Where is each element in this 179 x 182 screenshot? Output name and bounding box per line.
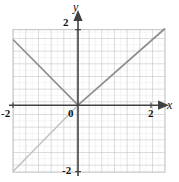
x-axis-tick-label-right: 2	[148, 108, 154, 119]
x-axis-label: x	[167, 99, 172, 111]
grid-major	[13, 30, 165, 173]
x-axis-tick-label-left: -2	[1, 108, 10, 119]
origin-label: 0	[68, 108, 74, 119]
y-axis-tick-label-bottom: -2	[62, 165, 71, 176]
coordinate-plane-figure: x y 2 -2 -2 2 0	[0, 0, 179, 182]
y-axis-label: y	[73, 1, 78, 13]
graph-canvas	[0, 0, 179, 182]
y-axis-tick-label-top: 2	[63, 17, 69, 28]
